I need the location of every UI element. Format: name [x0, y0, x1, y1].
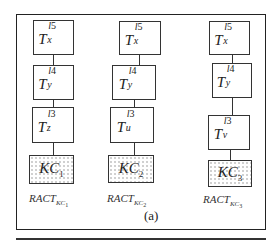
edge-col3-3	[230, 150, 231, 160]
node-col1-tz3: Tl3z	[32, 107, 74, 143]
kc-node-1: KC1	[29, 155, 74, 184]
node-col3-ty4: Tl4y	[212, 63, 252, 98]
edge-col2-3	[134, 143, 135, 155]
edge-col2-2	[134, 100, 135, 107]
node-col2-tu3: Tl3u	[110, 107, 154, 143]
kc-node-2: KC2	[108, 155, 154, 183]
edge-col2-1	[139, 55, 140, 65]
edge-col1-3	[53, 143, 54, 155]
edge-col3-2	[232, 98, 233, 115]
edge-col1-1	[53, 55, 54, 65]
node-col2-tx5: Tl5x	[119, 21, 161, 55]
figure-caption: (a)	[144, 208, 158, 224]
node-col2-ty4: Tl4y	[112, 65, 156, 100]
kc-node-3: KC3	[208, 160, 252, 187]
node-col1-ty4: Tl4y	[33, 65, 74, 100]
ract-label-2: RACTKC2	[107, 192, 146, 209]
ract-label-3: RACTKC3	[203, 193, 242, 210]
edge-col3-1	[232, 55, 233, 63]
ract-label-1: RACTKC1	[29, 192, 68, 209]
node-col3-tx5: Tl5x	[209, 21, 250, 55]
node-col1-tx5: Tl5x	[33, 20, 74, 55]
edge-col1-2	[53, 100, 54, 107]
node-col3-tv3: Tl3v	[208, 115, 250, 150]
